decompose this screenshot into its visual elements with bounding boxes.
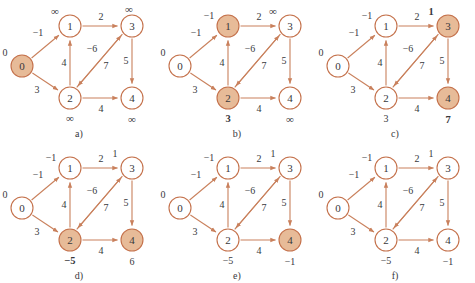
- edge-weight-2-4: 4: [257, 103, 262, 114]
- edge-weight-0-2: 3: [35, 226, 40, 237]
- distance-label-node-1: −1: [362, 152, 373, 163]
- distance-label-node-2: 3: [225, 113, 230, 124]
- panel-c: −1324−6754001−1233147c): [316, 0, 474, 141]
- edge-weight-0-1: −1: [191, 169, 202, 180]
- edge-weight-0-2: 3: [351, 84, 356, 95]
- node-label-2: 2: [225, 234, 231, 246]
- distance-label-node-4: −1: [443, 256, 454, 267]
- edge-weight-2-4: 4: [257, 245, 262, 256]
- node-label-3: 3: [287, 20, 293, 32]
- distance-label-node-0: 0: [161, 47, 166, 58]
- edge-2-to-3: [235, 36, 279, 88]
- edge-0-to-1: [32, 177, 59, 200]
- node-label-3: 3: [129, 20, 135, 32]
- edge-weight-2-3: 7: [262, 60, 267, 71]
- edge-weight-0-1: −1: [33, 27, 44, 38]
- edge-weight-2-1: 4: [220, 57, 225, 68]
- node-label-1: 1: [67, 162, 73, 174]
- node-label-4: 4: [445, 234, 451, 246]
- edge-2-to-3: [77, 178, 121, 230]
- distance-label-node-0: 0: [319, 189, 324, 200]
- edge-weight-2-3: 7: [420, 60, 425, 71]
- edge-weight-0-2: 3: [193, 84, 198, 95]
- edge-weight-2-1: 4: [378, 57, 383, 68]
- node-label-2: 2: [67, 92, 73, 104]
- panel-caption: f): [392, 270, 399, 282]
- edge-weight-1-3: 2: [99, 153, 104, 164]
- node-label-0: 0: [19, 60, 25, 72]
- edge-weight-1-3: 2: [415, 11, 420, 22]
- distance-label-node-0: 0: [161, 189, 166, 200]
- edge-2-to-3: [235, 178, 279, 230]
- edge-weight-2-1: 4: [220, 199, 225, 210]
- panel-caption: d): [75, 270, 83, 282]
- distance-label-node-1: −1: [204, 152, 215, 163]
- distance-label-node-3: 1: [429, 148, 434, 159]
- distance-label-node-2: −5: [381, 255, 392, 266]
- node-label-3: 3: [287, 162, 293, 174]
- edge-weight-3-4: 5: [440, 197, 445, 208]
- node-label-2: 2: [225, 92, 231, 104]
- node-label-0: 0: [335, 202, 341, 214]
- node-label-4: 4: [129, 92, 135, 104]
- edge-weight-3-2: −6: [87, 185, 98, 196]
- edge-weight-2-1: 4: [378, 199, 383, 210]
- node-label-4: 4: [287, 92, 293, 104]
- distance-label-node-0: 0: [319, 47, 324, 58]
- edge-0-to-1: [32, 35, 59, 58]
- node-label-2: 2: [383, 234, 389, 246]
- distance-label-node-4: 6: [130, 256, 135, 267]
- node-label-0: 0: [177, 60, 183, 72]
- node-label-0: 0: [19, 202, 25, 214]
- distance-label-node-1: −1: [204, 10, 215, 21]
- node-label-3: 3: [129, 162, 135, 174]
- edge-weight-3-4: 5: [124, 55, 129, 66]
- edge-0-to-1: [348, 35, 375, 58]
- node-label-0: 0: [335, 60, 341, 72]
- distance-label-node-4: 7: [445, 114, 450, 125]
- edge-weight-2-3: 7: [104, 60, 109, 71]
- figure-bellman-ford-trace: −1324−6754001∞2∞3∞4∞a)−1324−6754001−1233…: [0, 0, 475, 283]
- edge-weight-3-2: −6: [403, 43, 414, 54]
- edge-weight-2-1: 4: [62, 57, 67, 68]
- distance-label-node-3: 1: [271, 148, 276, 159]
- edge-weight-2-1: 4: [62, 199, 67, 210]
- edge-weight-0-2: 3: [35, 84, 40, 95]
- edge-weight-0-1: −1: [191, 27, 202, 38]
- edge-weight-0-2: 3: [193, 226, 198, 237]
- edge-weight-1-3: 2: [257, 11, 262, 22]
- distance-label-node-4: ∞: [286, 113, 294, 125]
- edge-weight-1-3: 2: [415, 153, 420, 164]
- distance-label-node-2: ∞: [66, 112, 74, 124]
- edge-weight-3-2: −6: [403, 185, 414, 196]
- edge-weight-2-3: 7: [420, 202, 425, 213]
- distance-label-node-1: −1: [46, 152, 57, 163]
- node-label-1: 1: [383, 162, 389, 174]
- distance-label-node-2: −5: [223, 255, 234, 266]
- node-label-1: 1: [225, 20, 231, 32]
- node-label-4: 4: [445, 92, 451, 104]
- edge-weight-3-2: −6: [245, 185, 256, 196]
- distance-label-node-4: −1: [285, 256, 296, 267]
- node-label-3: 3: [445, 162, 451, 174]
- node-label-2: 2: [383, 92, 389, 104]
- panel-caption: c): [391, 128, 399, 140]
- panel-a: −1324−6754001∞2∞3∞4∞a): [0, 0, 158, 141]
- distance-label-node-0: 0: [3, 189, 8, 200]
- edge-0-to-1: [190, 177, 217, 200]
- node-label-0: 0: [177, 202, 183, 214]
- node-label-4: 4: [287, 234, 293, 246]
- edge-0-to-1: [190, 35, 217, 58]
- distance-label-node-3: ∞: [269, 5, 277, 17]
- node-label-3: 3: [445, 20, 451, 32]
- edge-weight-2-4: 4: [415, 103, 420, 114]
- edge-weight-2-4: 4: [99, 103, 104, 114]
- edge-weight-3-2: −6: [245, 43, 256, 54]
- edge-weight-2-4: 4: [415, 245, 420, 256]
- edge-2-to-3: [393, 36, 437, 88]
- distance-label-node-3: 1: [113, 148, 118, 159]
- panel-d: −1324−6754001−12−53146d): [0, 142, 158, 283]
- distance-label-node-3: 1: [428, 6, 433, 17]
- edge-weight-3-4: 5: [440, 55, 445, 66]
- edge-weight-3-4: 5: [124, 197, 129, 208]
